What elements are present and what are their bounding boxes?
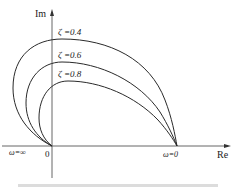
curve-label-zeta-0.6: ζ =0.6	[58, 50, 82, 60]
origin-label: 0	[45, 149, 50, 159]
omega-zero-label: ω=0	[163, 150, 178, 159]
omega-infinity-label: ω=∞	[9, 148, 26, 157]
re-axis-label: Re	[217, 149, 229, 160]
im-axis-arrow-icon	[50, 9, 54, 16]
curve-label-zeta-0.4: ζ =0.4	[58, 27, 82, 37]
curve-zeta-0.4	[13, 39, 177, 146]
curve-zeta-0.6	[26, 62, 177, 146]
curve-label-zeta-0.8: ζ =0.8	[58, 69, 82, 79]
curve-zeta-0.8	[39, 81, 177, 146]
caption-clipped	[18, 184, 218, 187]
re-axis-arrow-icon	[224, 144, 231, 148]
im-axis-label: Im	[35, 8, 46, 19]
nyquist-diagram: Im Re 0 ζ =0.4 ζ =0.6 ζ =0.8 ω=∞ ω=0	[0, 0, 235, 188]
